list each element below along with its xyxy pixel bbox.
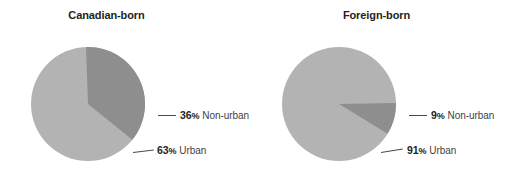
pie-label-nonurban-value-canadian-born: 36% [180,109,200,121]
pie-label-urban-category-foreign-born: Urban [429,145,456,156]
pie-label-nonurban-value-foreign-born: 9% [431,109,445,121]
pie-label-urban-category-canadian-born: Urban [179,145,206,156]
pie-svg-canadian-born [30,46,146,162]
leader-line-nonurban-canadian-born [158,115,176,116]
pie-chart-figure: Canadian-born 36% Non-urban 63% Urban Fo… [0,0,518,181]
pie-label-urban-value-foreign-born: 91% [407,144,427,156]
chart-title-canadian-born: Canadian-born [0,9,236,21]
pie-label-urban-foreign-born: 91% Urban [407,144,456,157]
pie-label-nonurban-category-canadian-born: Non-urban [202,110,249,121]
pie-svg-foreign-born [281,46,397,162]
pie-label-urban-canadian-born: 63% Urban [157,144,206,157]
chart-panel-foreign-born: Foreign-born 9% Non-urban 91% Urban [259,0,518,181]
pie-label-urban-value-canadian-born: 63% [157,144,177,156]
pie-label-nonurban-foreign-born: 9% Non-urban [431,109,494,122]
chart-panel-canadian-born: Canadian-born 36% Non-urban 63% Urban [0,0,259,181]
pie-label-nonurban-category-foreign-born: Non-urban [447,110,494,121]
pie-canadian-born [30,46,146,162]
chart-title-foreign-born: Foreign-born [247,9,506,21]
pie-label-nonurban-canadian-born: 36% Non-urban [180,109,249,122]
leader-line-nonurban-foreign-born [409,115,427,116]
pie-foreign-born [281,46,397,162]
